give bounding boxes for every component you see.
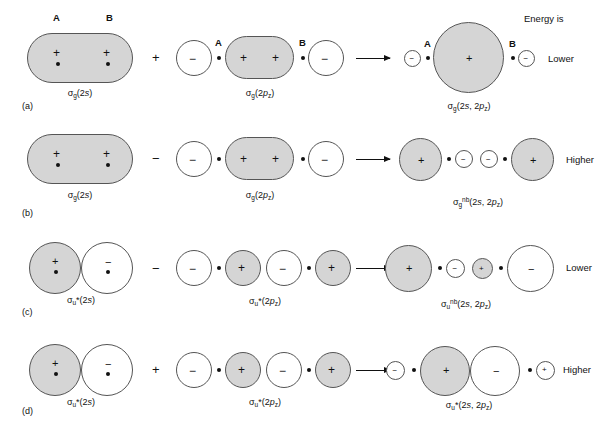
nucleus-dot-b [307, 266, 311, 270]
orbital-lobe-minus-large-row-c: − [507, 245, 554, 292]
sign-minus: − [321, 53, 328, 65]
nucleus-dot-a [217, 56, 221, 60]
reaction-arrow-row-b [356, 159, 390, 160]
nucleus-dot-b [301, 157, 305, 161]
orbital-lobe-minus-large-row-d: − [470, 346, 520, 396]
sign-minus: − [105, 257, 111, 268]
nucleus-dot-b [307, 368, 311, 372]
sign-minus: − [279, 365, 286, 377]
orbital-sigma-g-2pz-row-a: + + [225, 36, 294, 79]
sign-minus: − [393, 367, 398, 375]
sign-minus: − [105, 359, 111, 370]
orbital-sigma-g-2s-row-a: + + [27, 33, 133, 83]
sign-minus: − [524, 55, 529, 63]
orbital-lobe-plus-large-left-row-b: + [399, 138, 442, 181]
sign-minus: − [528, 264, 534, 275]
orbital-lobe-plus-2-row-d: + [315, 352, 351, 388]
label-text: σg(2s) [68, 190, 93, 200]
label-text: σu*(2pz) [249, 397, 281, 407]
orbital-lobe-minus-1-row-c: − [176, 250, 212, 286]
nucleus-dot-b [106, 270, 110, 274]
sign-minus: − [189, 263, 196, 275]
orbital-label-sigma-g-2pz-row-a: σg(2pz) [215, 88, 305, 99]
orbital-lobe-plus-large-row-d: + [420, 346, 470, 396]
nucleus-dot-a [54, 270, 58, 274]
sign-plus: + [328, 364, 335, 376]
row-tag-d: (d) [22, 406, 33, 416]
sign-minus: − [189, 53, 196, 65]
sign-plus: + [530, 155, 536, 166]
orbital-lobe-minus-small-row-c: − [446, 259, 465, 278]
sign-plus: + [53, 47, 60, 59]
atom-label-a-row-a-result: A [424, 38, 431, 49]
label-text: σg(2pz) [246, 190, 274, 200]
label-text: σgnb(2s, 2pz) [453, 197, 503, 207]
orbital-lobe-minus-small-left-row-a: − [404, 50, 421, 67]
sign-plus: + [53, 148, 60, 160]
atom-label-a-row-a: A [53, 12, 60, 23]
orbital-lobe-minus-2-row-c: − [266, 250, 302, 286]
nucleus-dot-b [511, 56, 515, 60]
label-text: σg(2pz) [246, 88, 274, 98]
energy-value-row-d: Higher [563, 364, 591, 375]
energy-value-row-c: Lower [566, 262, 592, 273]
orbital-lobe-minus-1-row-d: − [176, 352, 212, 388]
nucleus-dot-b [499, 266, 503, 270]
orbital-lobe-minus-row-c: − [81, 242, 133, 294]
sign-plus: + [240, 52, 247, 64]
nucleus-dot-a [447, 157, 451, 161]
orbital-lobe-minus-left-row-a: − [176, 40, 212, 76]
sign-minus: − [461, 156, 466, 164]
energy-column-header: Energy is [524, 13, 564, 24]
orbital-lobe-minus-right-row-a: − [308, 40, 344, 76]
orbital-lobe-minus-small-right-row-a: − [518, 50, 535, 67]
operator-row-d: + [152, 363, 160, 376]
orbital-lobe-minus-small-right-row-b: − [480, 150, 498, 168]
nucleus-dot-a [217, 157, 221, 161]
sign-plus: + [466, 53, 472, 64]
orbital-lobe-minus-small-row-d: − [386, 361, 405, 380]
row-tag-c: (c) [22, 307, 33, 317]
orbital-label-sigma-g-2s-row-a: σg(2s) [40, 88, 120, 99]
reaction-arrow-row-a [356, 58, 390, 59]
sign-minus: − [493, 366, 499, 377]
figure-canvas: Energy is (a) A B + + σg(2s) + − A + + B… [0, 0, 616, 433]
row-tag-b: (b) [22, 208, 33, 218]
label-text: σu*(2s) [67, 295, 95, 305]
orbital-lobe-plus-small-row-d: + [536, 361, 555, 380]
nucleus-dot-b [301, 56, 305, 60]
orbital-lobe-plus-1-row-d: + [225, 352, 261, 388]
orbital-label-result-row-d: σu*(2s, 2pz) [415, 400, 523, 411]
label-text: σg(2s, 2pz) [448, 101, 491, 111]
nucleus-dot-b [106, 163, 110, 167]
energy-value-row-b: Higher [566, 154, 594, 165]
nucleus-dot-b [106, 372, 110, 376]
orbital-label-sigma-u-2pz-row-c: σu*(2pz) [218, 296, 312, 307]
sign-plus: + [272, 52, 279, 64]
sign-plus: + [479, 265, 484, 273]
orbital-lobe-plus-row-c: + [29, 242, 81, 294]
sign-minus: − [279, 263, 286, 275]
orbital-lobe-plus-small-row-c: + [472, 258, 493, 279]
sign-minus: − [321, 154, 328, 166]
nucleus-dot-a [412, 368, 416, 372]
orbital-label-result-row-b: σgnb(2s, 2pz) [424, 196, 532, 208]
orbital-lobe-minus-row-d: − [81, 344, 133, 396]
orbital-label-result-row-a: σg(2s, 2pz) [428, 101, 510, 112]
orbital-lobe-minus-right-row-b: − [308, 141, 344, 177]
nucleus-dot-a [217, 368, 221, 372]
nucleus-dot-a [56, 163, 60, 167]
sign-plus: + [418, 155, 424, 166]
orbital-label-result-row-c: σunb(2s, 2pz) [412, 298, 520, 310]
orbital-label-sigma-u-2s-row-c: σu*(2s) [40, 295, 122, 306]
orbital-label-sigma-g-2s-row-b: σg(2s) [40, 190, 120, 201]
label-text: σg(2s) [68, 88, 93, 98]
sign-plus: + [240, 153, 247, 165]
sign-plus: + [103, 148, 110, 160]
sign-plus: + [238, 262, 245, 274]
orbital-sigma-g-2s-row-b: + + [27, 134, 133, 184]
sign-plus: + [272, 153, 279, 165]
sign-plus: + [103, 47, 110, 59]
orbital-lobe-plus-large-right-row-b: + [511, 138, 554, 181]
orbital-lobe-minus-left-row-b: − [176, 141, 212, 177]
